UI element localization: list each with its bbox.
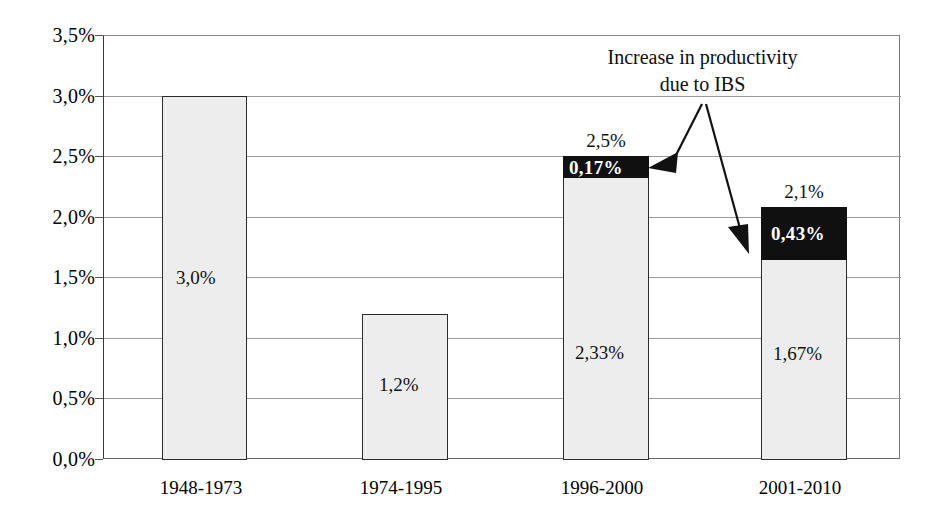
y-axis-tick-mark [95, 277, 103, 278]
y-axis-tick-mark [95, 459, 103, 460]
y-axis-tick-mark [95, 398, 103, 399]
y-axis-tick-label: 2,0% [9, 207, 95, 227]
bar-segment-ibs-1996-2000[interactable]: 0,17% [563, 156, 649, 178]
y-axis-tick-label: 1,5% [9, 267, 95, 287]
x-axis-category-label: 1948-1973 [111, 477, 291, 499]
y-axis-tick-mark [95, 96, 103, 97]
annotation-line-1: Increase in productivity [575, 44, 830, 71]
bar-total-label-1996-2000: 2,5% [563, 131, 649, 150]
plot-area: 3,0% 1,2% 2,33% 0,17% 2,5% 1,67% 0,43% 2… [103, 35, 900, 459]
bar-segment-base-1996-2000[interactable]: 2,33% [563, 177, 649, 460]
y-axis-tick-mark [95, 217, 103, 218]
y-axis-tick-mark [95, 35, 103, 36]
y-axis-tick-label: 1,0% [9, 328, 95, 348]
y-axis-tick-label: 2,5% [9, 146, 95, 166]
y-axis-tick-label: 3,0% [9, 86, 95, 106]
x-axis-category-label: 1996-2000 [512, 477, 692, 499]
bar-ibs-value-label: 0,43% [771, 224, 825, 243]
x-axis-category-label: 2001-2010 [710, 477, 890, 499]
y-axis-tick-label: 0,5% [9, 388, 95, 408]
y-axis-tick-label: 3,5% [9, 25, 95, 45]
productivity-growth-bar-chart: 3,5% 3,0% 2,5% 2,0% 1,5% 1,0% 0,5% 0,0% [0, 0, 933, 524]
bar-segment-base-1948-1973[interactable]: 3,0% [162, 96, 247, 460]
y-axis-tick-label: 0,0% [9, 449, 95, 469]
bar-ibs-value-label: 0,17% [569, 158, 623, 177]
bar-segment-base-2001-2010[interactable]: 1,67% [761, 259, 847, 460]
bar-value-label: 1,67% [773, 344, 822, 363]
annotation-line-2: due to IBS [575, 71, 830, 98]
x-axis-category-label: 1974-1995 [311, 477, 491, 499]
bar-segment-base-1974-1995[interactable]: 1,2% [362, 314, 448, 460]
y-axis-tick-mark [95, 156, 103, 157]
annotation-callout: Increase in productivity due to IBS [575, 44, 830, 98]
bar-value-label: 2,33% [575, 343, 624, 362]
bar-value-label: 1,2% [379, 375, 419, 394]
bar-total-label-2001-2010: 2,1% [761, 182, 847, 201]
y-axis-tick-mark [95, 338, 103, 339]
bar-value-label: 3,0% [176, 268, 216, 287]
bar-segment-ibs-2001-2010[interactable]: 0,43% [761, 207, 847, 260]
